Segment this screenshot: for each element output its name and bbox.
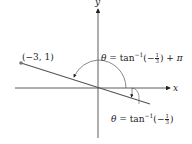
small-angle-arc [132,88,133,97]
close-paren: ) [160,53,164,63]
minus-sign: − [147,53,155,63]
func-name: tan [120,53,135,63]
x-axis-label: x [173,84,178,93]
theta-symbol: θ [111,114,116,124]
small-arc-leader [132,88,139,104]
fraction: 13 [155,53,160,65]
point-label: (−3, 1) [22,53,54,62]
close-paren: ) [170,114,174,124]
equals-sign: = [109,53,117,63]
fraction: 13 [165,114,170,126]
func-name: tan [130,114,145,124]
terminal-line [21,63,150,104]
minus-sign: − [157,114,165,124]
small-angle-label: θ = tan−1(−13) [111,113,173,126]
equals-sign: = [119,114,127,124]
theta-symbol: θ [101,53,106,63]
pi-symbol: π [177,53,183,63]
large-angle-label: θ = tan−1(−13) + π [101,52,183,65]
y-axis-label: y [95,0,100,7]
plus-sign: + [166,53,174,63]
